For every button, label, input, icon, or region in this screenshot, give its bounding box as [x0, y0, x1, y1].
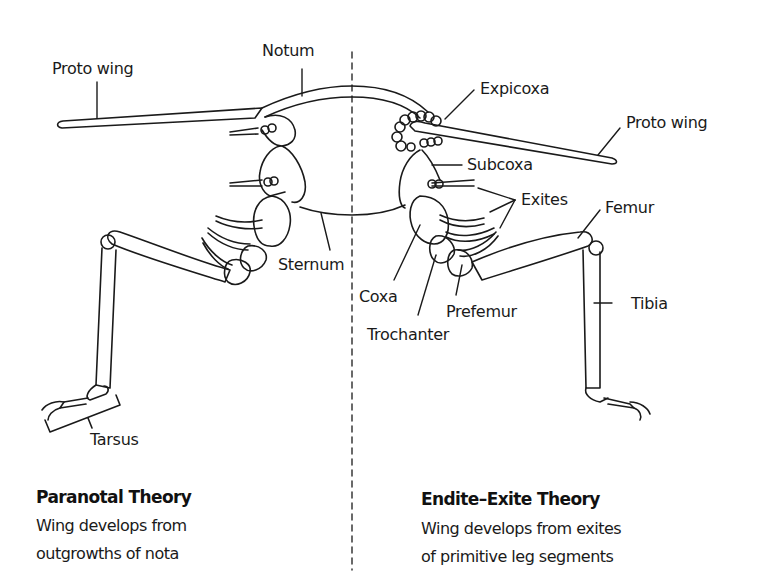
- label-sternum: Sternum: [278, 256, 344, 274]
- paranotal-theory-desc-line2: outgrowths of nota: [36, 540, 179, 568]
- label-prefemur: Prefemur: [446, 303, 517, 321]
- endite-exite-theory-desc-line1: Wing develops from exites: [421, 515, 621, 543]
- label-expicoxa: Expicoxa: [480, 80, 549, 98]
- endite-exite-theory-desc-line2: of primitive leg segments: [421, 543, 613, 571]
- label-subcoxa: Subcoxa: [467, 156, 533, 174]
- label-femur: Femur: [605, 199, 654, 217]
- label-proto-wing-left: Proto wing: [52, 60, 133, 78]
- label-proto-wing-right: Proto wing: [626, 114, 707, 132]
- paranotal-theory-title: Paranotal Theory: [36, 487, 191, 507]
- label-notum: Notum: [262, 42, 314, 60]
- label-tibia: Tibia: [631, 295, 668, 313]
- label-coxa: Coxa: [359, 288, 398, 306]
- endite-exite-theory-title: Endite–Exite Theory: [421, 489, 600, 509]
- tarsus-bracket: [45, 395, 120, 432]
- right-leg: [472, 232, 650, 420]
- left-proto-wing: [58, 108, 262, 128]
- label-exites: Exites: [521, 191, 568, 209]
- paranotal-theory-desc-line1: Wing develops from: [36, 512, 187, 540]
- label-tarsus: Tarsus: [90, 431, 139, 449]
- label-trochanter: Trochanter: [367, 326, 449, 344]
- left-leg: [42, 231, 230, 420]
